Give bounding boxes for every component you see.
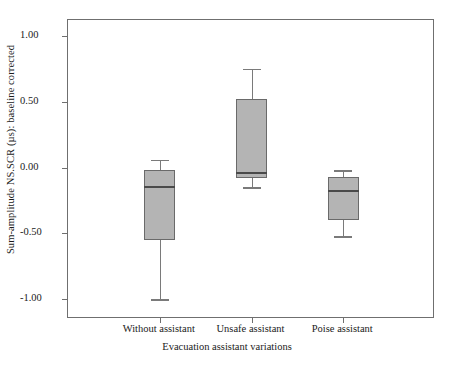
y-axis-tick-label: 1.00 xyxy=(20,29,34,40)
x-axis-title: Evacuation assistant variations xyxy=(0,341,454,352)
y-axis-title-text: Sum-amplitude NS.SCR (µs): baseline corr… xyxy=(6,45,17,254)
box-iqr xyxy=(328,177,359,220)
box-plot-group xyxy=(68,20,433,317)
x-axis-tick-label: Poise assistant xyxy=(312,323,373,334)
x-axis-tick-label: Without assistant xyxy=(123,323,195,334)
y-axis-tick-label: -1.00 xyxy=(20,292,34,303)
whisker-cap-upper xyxy=(334,170,352,172)
plot-frame: 1.000.500.00-0.50-1.00 xyxy=(67,19,434,318)
plot-area: 1.000.500.00-0.50-1.00 xyxy=(68,20,433,317)
y-axis-tick-label: 0.50 xyxy=(20,95,34,106)
y-axis-title: Sum-amplitude NS.SCR (µs): baseline corr… xyxy=(4,0,18,299)
median-line xyxy=(328,190,359,192)
box-plot-figure: Sum-amplitude NS.SCR (µs): baseline corr… xyxy=(0,0,454,369)
y-axis-tick-label: -0.50 xyxy=(20,226,34,237)
whisker-lower xyxy=(343,220,344,236)
whisker-cap-lower xyxy=(334,236,352,238)
x-axis-tick-label: Unsafe assistant xyxy=(217,323,285,334)
y-axis-tick-label: 0.00 xyxy=(20,161,34,172)
